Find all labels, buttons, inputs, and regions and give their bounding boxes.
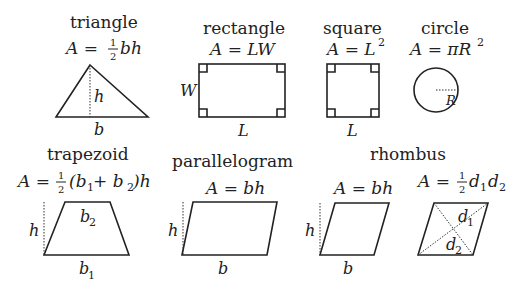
right-angle-marks — [327, 64, 379, 117]
rhombus-formula-sub1: 1 — [480, 181, 487, 194]
trapezoid-bottom-sub: 1 — [88, 269, 95, 282]
trapezoid-height-label: h — [29, 221, 39, 240]
triangle-height-label: h — [94, 87, 104, 106]
trapezoid-frac-num: 1 — [58, 170, 64, 181]
triangle-title: triangle — [70, 12, 138, 32]
rhombus-frac-den: 2 — [459, 184, 465, 195]
rhombus-height-label: h — [305, 221, 315, 240]
trapezoid-title: trapezoid — [47, 144, 129, 164]
parallelogram-shape — [182, 202, 277, 255]
square-formula: A = L — [325, 39, 376, 59]
rhombus-formula-d2: d — [488, 171, 499, 191]
rectangle-formula: A = LW — [208, 39, 276, 59]
area-formulas-diagram: triangle A = 1 2 bh h b rectangle A = LW… — [0, 0, 523, 293]
circle-formula-exp: 2 — [477, 36, 484, 49]
circle-group: circle A = πR 2 R — [408, 18, 484, 112]
triangle-formula-lhs: A = — [64, 38, 98, 58]
square-length-label: L — [346, 121, 358, 140]
triangle-base-label: b — [94, 120, 104, 139]
parallelogram-formula: A = bh — [204, 178, 265, 198]
rectangle-shape — [199, 64, 285, 117]
rhombus-formula-d-lhs: A = — [416, 171, 450, 191]
trapezoid-formula-lhs: A = — [16, 171, 50, 191]
rhombus-frac-num: 1 — [459, 170, 465, 181]
circle-title: circle — [421, 18, 469, 38]
square-title: square — [323, 18, 382, 38]
rhombus-base-label: b — [343, 259, 353, 278]
rhombus-group: rhombus A = bh h b A = 1 2 d 1 d 2 d 1 d… — [305, 144, 506, 278]
triangle-frac-num: 1 — [110, 37, 116, 48]
rectangle-width-label: W — [180, 81, 198, 100]
rectangle-length-label: L — [237, 121, 249, 140]
rectangle-group: rectangle A = LW W L — [180, 18, 285, 140]
triangle-group: triangle A = 1 2 bh h b — [56, 12, 148, 139]
rhombus-bh-shape — [320, 203, 389, 255]
trapezoid-formula-part2: + b — [93, 171, 124, 191]
rhombus-d1-sub: 1 — [467, 216, 474, 229]
parallelogram-base-label: b — [218, 259, 228, 278]
square-formula-exp: 2 — [378, 36, 385, 49]
triangle-formula-rhs: bh — [120, 38, 142, 58]
parallelogram-title: parallelogram — [172, 151, 293, 171]
rhombus-formula-sub2: 2 — [499, 181, 506, 194]
rectangle-title: rectangle — [203, 18, 285, 38]
trapezoid-top-sub: 2 — [89, 216, 96, 229]
rhombus-title: rhombus — [370, 144, 446, 164]
rhombus-formula-bh: A = bh — [332, 178, 393, 198]
trapezoid-formula-part1: (b — [69, 171, 87, 191]
trapezoid-formula-part3: )h — [132, 171, 151, 191]
circle-radius-label: R — [445, 93, 456, 108]
right-angle-marks — [199, 64, 285, 117]
triangle-frac-den: 2 — [110, 51, 116, 62]
trapezoid-group: trapezoid A = 1 2 (b 1 + b 2 )h h b 2 b … — [16, 144, 151, 282]
parallelogram-height-label: h — [168, 221, 178, 240]
rhombus-formula-d1: d — [469, 171, 480, 191]
rhombus-d2-sub: 2 — [455, 244, 462, 257]
circle-formula: A = πR — [408, 39, 472, 59]
parallelogram-group: parallelogram A = bh h b — [168, 151, 293, 278]
square-group: square A = L 2 L — [323, 18, 385, 140]
trapezoid-frac-den: 2 — [58, 184, 64, 195]
